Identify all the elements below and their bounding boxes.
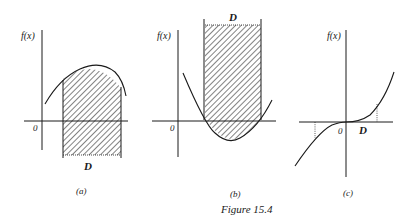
figure-caption: Figure 15.4 bbox=[220, 203, 273, 215]
origin-label-b: 0 bbox=[170, 123, 175, 133]
panel-c bbox=[295, 30, 394, 177]
origin-label-a: 0 bbox=[33, 123, 38, 133]
curve-c bbox=[295, 72, 394, 166]
y-axis-label-c: f(x) bbox=[327, 30, 342, 42]
region-label-b: D bbox=[228, 11, 237, 23]
y-axis-label-b: f(x) bbox=[157, 30, 172, 42]
region-label-c: D bbox=[358, 124, 367, 136]
hatched-region-b bbox=[205, 25, 261, 145]
panel-label-a: (a) bbox=[76, 186, 87, 196]
panel-a bbox=[24, 30, 128, 158]
origin-label-c: 0 bbox=[338, 126, 343, 136]
panel-label-c: (c) bbox=[343, 188, 353, 198]
y-axis-label-a: f(x) bbox=[21, 30, 36, 42]
panel-label-b: (b) bbox=[230, 189, 241, 199]
region-label-a: D bbox=[83, 160, 92, 172]
figure-canvas: f(x) 0 D (a) f(x) 0 D (b) Figure 15.4 f(… bbox=[0, 0, 412, 224]
